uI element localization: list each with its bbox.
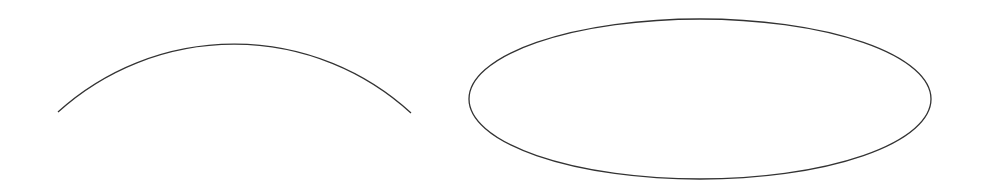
arc-shape — [58, 44, 411, 113]
ellipse-shape — [469, 19, 931, 179]
drawing-canvas — [0, 0, 987, 191]
shapes-svg — [0, 0, 987, 191]
